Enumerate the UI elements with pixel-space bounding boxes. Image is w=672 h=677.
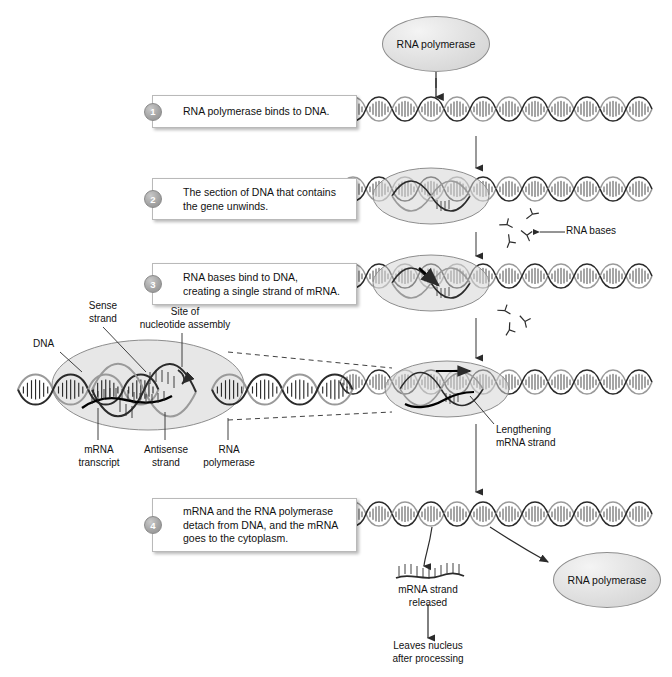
step-box-3[interactable]: 3 RNA bases bind to DNA, creating a sing… xyxy=(152,263,357,305)
rna-bases-cluster-step2 xyxy=(498,208,565,248)
dna-strand-step1 xyxy=(340,97,652,121)
step-number-1: 1 xyxy=(144,103,162,121)
label-lengthening-mrna-strand: Lengthening mRNA strand xyxy=(496,424,555,449)
label-inset-rna-polymerase: RNA polymerase xyxy=(190,444,268,469)
dna-strand-elongation xyxy=(340,361,652,424)
inset-detail-artwork xyxy=(18,327,352,440)
step-box-2[interactable]: 2 The section of DNA that contains the g… xyxy=(152,178,357,220)
rna-polymerase-oval-top: RNA polymerase xyxy=(382,16,490,72)
dna-strand-step3 xyxy=(340,255,652,311)
step-box-4[interactable]: 4 mRNA and the RNA polymerase detach fro… xyxy=(152,498,357,552)
step-text-4: mRNA and the RNA polymerase detach from … xyxy=(183,505,338,546)
dna-strand-step4 xyxy=(340,502,652,526)
dna-strand-step2 xyxy=(340,168,652,224)
step-text-2: The section of DNA that contains the gen… xyxy=(183,186,336,213)
rna-polymerase-oval-released-label: RNA polymerase xyxy=(568,574,647,587)
step-number-3: 3 xyxy=(144,275,162,293)
rna-bases-cluster-step3 xyxy=(497,305,531,336)
label-leaves-nucleus: Leaves nucleus after processing xyxy=(368,640,488,665)
inset-connector-lines xyxy=(228,352,392,420)
step-box-1[interactable]: 1 RNA polymerase binds to DNA. xyxy=(152,95,357,128)
label-dna: DNA xyxy=(33,338,54,351)
label-rna-bases: RNA bases xyxy=(566,225,616,238)
step-text-1: RNA polymerase binds to DNA. xyxy=(183,105,329,119)
step-number-4: 4 xyxy=(144,516,162,534)
rna-polymerase-oval-released: RNA polymerase xyxy=(553,552,661,608)
label-mrna-strand-released: mRNA strand released xyxy=(376,584,480,609)
step-text-3: RNA bases bind to DNA, creating a single… xyxy=(183,271,340,298)
step-number-2: 2 xyxy=(144,190,162,208)
label-mrna-transcript: mRNA transcript xyxy=(63,444,135,469)
rna-polymerase-oval-top-label: RNA polymerase xyxy=(397,38,476,51)
released-mrna-strand xyxy=(396,563,464,579)
label-site-of-nucleotide-assembly: Site of nucleotide assembly xyxy=(122,306,248,331)
